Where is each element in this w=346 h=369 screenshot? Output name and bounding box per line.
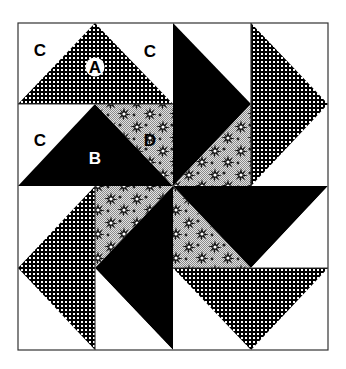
label-a: A	[89, 58, 101, 77]
label-d: D	[144, 131, 156, 150]
quilt-block-diagram: C A C C B D	[0, 0, 346, 369]
label-c-lower: C	[34, 131, 46, 150]
label-c-top-left: C	[34, 41, 46, 60]
label-b: B	[89, 149, 101, 168]
label-c-top-right: C	[144, 42, 156, 61]
